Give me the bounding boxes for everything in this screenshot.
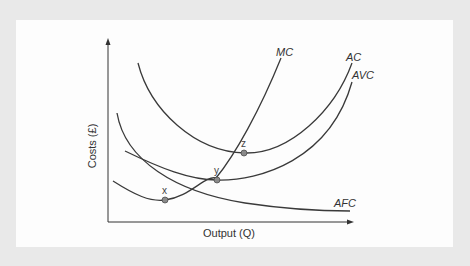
avc-curve: [125, 82, 352, 180]
mc-label: MC: [276, 46, 293, 58]
point-y-label: y: [214, 165, 219, 176]
y-axis-arrow-icon: [106, 38, 111, 45]
point-z-label: z: [241, 138, 246, 149]
ac-label: AC: [346, 51, 361, 63]
mc-curve: [113, 58, 281, 200]
afc-label: AFC: [334, 197, 356, 209]
avc-label: AVC: [352, 69, 374, 81]
point-x-label: x: [162, 185, 167, 196]
afc-curve: [117, 113, 350, 211]
point-x: [162, 197, 168, 203]
point-y: [214, 177, 220, 183]
x-axis-label: Output (Q): [203, 227, 255, 239]
x-axis-arrow-icon: [347, 220, 354, 225]
y-axis-label: Costs (£): [86, 124, 98, 169]
point-z: [241, 150, 247, 156]
